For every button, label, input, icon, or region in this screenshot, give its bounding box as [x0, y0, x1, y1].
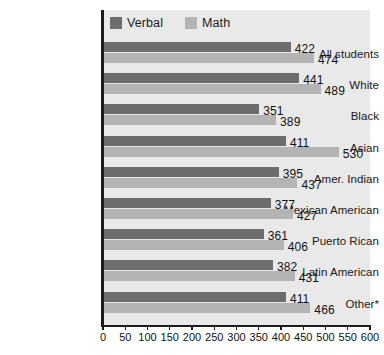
bar-verbal: [103, 104, 259, 114]
bar-verbal: [103, 229, 264, 239]
bar-verbal: [103, 136, 286, 146]
bar-math: [103, 271, 295, 281]
y-axis-line: [101, 10, 104, 327]
bar-value-label: 406: [288, 241, 308, 253]
legend-label-verbal: Verbal: [127, 17, 163, 30]
legend-entry-verbal: Verbal: [110, 17, 163, 30]
bar-verbal: [103, 42, 291, 52]
bar-value-label: 389: [280, 116, 300, 128]
bar-verbal: [103, 167, 279, 177]
legend-label-math: Math: [202, 17, 230, 30]
bar-math: [103, 209, 293, 219]
legend-entry-math: Math: [185, 17, 230, 30]
bar-value-label: 466: [314, 304, 334, 316]
bar-value-label: 427: [297, 210, 317, 222]
bar-value-label: 431: [299, 272, 319, 284]
bar-value-label: 474: [318, 54, 338, 66]
bar-value-label: 437: [301, 179, 321, 191]
bar-verbal: [103, 198, 271, 208]
legend-swatch-math: [185, 17, 197, 29]
x-axis-line: [101, 325, 370, 327]
bar-math: [103, 240, 284, 250]
legend-swatch-verbal: [110, 17, 122, 29]
x-tick-label: 600: [355, 332, 384, 343]
bar-math: [103, 178, 297, 188]
bar-verbal: [103, 260, 273, 270]
bar-math: [103, 303, 310, 313]
bar-verbal: [103, 292, 286, 302]
bar-value-label: 530: [343, 148, 363, 160]
bar-math: [103, 53, 314, 63]
bar-math: [103, 84, 321, 94]
bar-math: [103, 115, 276, 125]
chart-legend: Verbal Math: [110, 15, 230, 31]
bar-math: [103, 147, 339, 157]
bar-verbal: [103, 73, 299, 83]
bar-value-label: 489: [325, 85, 345, 97]
